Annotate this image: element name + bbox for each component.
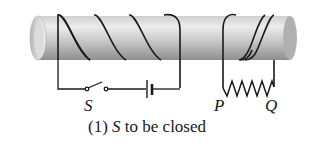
resistor-end-p-label: P — [214, 96, 224, 116]
figure-caption: (1) S to be closed — [88, 117, 206, 137]
switch-lever — [88, 82, 102, 88]
caption-symbol: S — [112, 117, 121, 136]
caption-number: (1) — [88, 117, 108, 136]
resistor-end-q-label: Q — [265, 96, 277, 116]
tube — [30, 16, 297, 60]
primary-circuit — [58, 60, 180, 98]
caption-text: to be closed — [125, 117, 206, 136]
resistor — [223, 81, 274, 96]
switch-label: S — [84, 96, 93, 116]
